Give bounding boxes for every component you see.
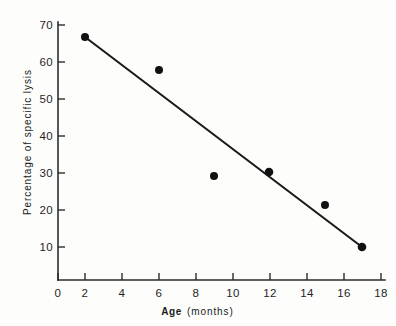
chart-figure: 70 60 50 40 30 20 10 0 2 4 6 8 (0, 0, 396, 326)
x-tick-label-10: 10 (226, 287, 240, 299)
y-tick-label-30: 30 (39, 167, 53, 179)
x-tick-label-2: 2 (82, 287, 89, 299)
x-axis-title-bold: Age (161, 306, 182, 317)
x-tick-label-12: 12 (263, 287, 277, 299)
data-point (155, 66, 163, 74)
x-tick-label-18: 18 (374, 287, 388, 299)
x-axis-title-unit: (months) (187, 306, 234, 317)
scatter-plot: 70 60 50 40 30 20 10 0 2 4 6 8 (0, 0, 396, 326)
x-tick-label-0: 0 (55, 287, 62, 299)
x-tick-label-4: 4 (119, 287, 126, 299)
x-axis-title: Age (months) (161, 306, 233, 317)
x-tick-label-8: 8 (193, 287, 200, 299)
data-point (210, 172, 218, 180)
y-axis-ticks (58, 25, 65, 247)
data-point (321, 201, 329, 209)
data-point (358, 243, 367, 252)
y-tick-label-10: 10 (39, 241, 53, 253)
y-tick-label-70: 70 (39, 19, 53, 31)
data-point (265, 168, 274, 177)
data-point (81, 33, 89, 41)
y-tick-label-50: 50 (39, 93, 53, 105)
y-axis-title: Percentage of specific lysis (22, 69, 33, 215)
y-axis-tick-labels: 70 60 50 40 30 20 10 (39, 19, 53, 253)
y-tick-label-60: 60 (39, 56, 53, 68)
y-tick-label-20: 20 (39, 204, 53, 216)
x-tick-label-14: 14 (300, 287, 314, 299)
y-tick-label-40: 40 (39, 130, 53, 142)
x-tick-label-16: 16 (337, 287, 351, 299)
x-tick-label-6: 6 (156, 287, 163, 299)
x-axis-ticks (58, 273, 381, 280)
regression-line (85, 37, 362, 247)
x-axis-tick-labels: 0 2 4 6 8 10 12 14 16 18 (55, 287, 388, 299)
